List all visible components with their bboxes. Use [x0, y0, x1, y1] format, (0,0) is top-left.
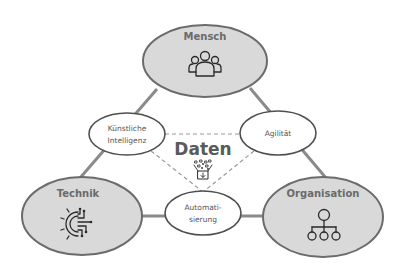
center-daten: Daten	[174, 139, 231, 179]
pillar-organisation: Organisation	[263, 177, 383, 257]
connector-ki-label-line1: Künstliche	[108, 124, 147, 133]
connector-automatisierung-label-line2: sierung	[189, 215, 217, 224]
connector-agilitaet: Agilität	[240, 111, 316, 155]
connector-agilitaet-label: Agilität	[265, 129, 292, 138]
center-daten-label: Daten	[174, 139, 231, 159]
connector-ki: Künstliche Intelligenz	[89, 113, 165, 155]
diagram-canvas: Mensch Technik	[0, 0, 406, 266]
data-funnel-icon	[194, 160, 212, 179]
pillar-mensch-label: Mensch	[184, 31, 227, 42]
pillar-technik: Technik	[22, 177, 142, 255]
connector-ki-shape	[89, 113, 165, 155]
connector-ki-label-line2: Intelligenz	[108, 136, 147, 145]
pillar-organisation-label: Organisation	[287, 188, 360, 199]
connector-automatisierung-shape	[165, 191, 241, 235]
pillar-mensch: Mensch	[143, 25, 267, 97]
pillar-technik-label: Technik	[57, 188, 100, 199]
connector-automatisierung: Automati- sierung	[165, 191, 241, 235]
connector-automatisierung-label-line1: Automati-	[184, 203, 221, 212]
